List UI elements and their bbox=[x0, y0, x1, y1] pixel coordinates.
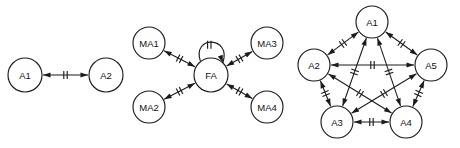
node-p3-a5[interactable]: A5 bbox=[415, 49, 447, 81]
node-p3-a1[interactable]: A1 bbox=[356, 6, 388, 38]
arrow-head-backward bbox=[331, 62, 339, 67]
node-label: MA3 bbox=[257, 38, 277, 49]
edge-tick-mark bbox=[239, 89, 243, 96]
path-diagram-figure: A1A2MA1MA2FAMA3MA4A1A2A5A3A4 bbox=[0, 0, 460, 148]
edge-tick-mark bbox=[383, 89, 387, 96]
edge-tick-mark bbox=[359, 91, 363, 98]
arrow-head-forward bbox=[244, 51, 252, 57]
node-label: A1 bbox=[366, 17, 378, 28]
node-label: MA1 bbox=[139, 38, 159, 49]
node-label: A1 bbox=[19, 70, 31, 81]
node-label: A2 bbox=[100, 70, 112, 81]
arrow-head-forward bbox=[352, 107, 360, 113]
edge-p3-e2 bbox=[386, 32, 418, 55]
edge-p3-e10 bbox=[354, 118, 389, 126]
edge-tick-mark bbox=[339, 41, 344, 47]
figure-canvas: A1A2MA1MA2FAMA3MA4A1A2A5A3A4 bbox=[0, 0, 460, 148]
edge-p2-e3 bbox=[227, 51, 253, 66]
node-p1-a2[interactable]: A2 bbox=[89, 58, 123, 92]
edge-tick-mark bbox=[236, 87, 240, 94]
arrow-head-forward bbox=[384, 107, 392, 113]
edge-tick-mark bbox=[401, 41, 406, 47]
arrow-head-backward bbox=[419, 81, 424, 89]
arrow-head-backward bbox=[227, 60, 235, 66]
edge-tick-mark bbox=[342, 39, 347, 45]
arrow-head-backward bbox=[354, 119, 362, 124]
arrow-head-forward bbox=[244, 93, 252, 99]
arrow-head-forward bbox=[413, 99, 418, 107]
arrow-head-forward bbox=[81, 72, 89, 77]
node-p3-a3[interactable]: A3 bbox=[321, 106, 353, 138]
edge-tick-mark bbox=[236, 56, 240, 63]
arrow-head-forward bbox=[407, 62, 415, 67]
edge-p2-e2 bbox=[164, 83, 195, 99]
node-label: A5 bbox=[425, 60, 437, 71]
arrow-head-backward bbox=[377, 38, 382, 46]
node-p1-a1[interactable]: A1 bbox=[8, 58, 42, 92]
edge-p2-e4 bbox=[227, 84, 253, 99]
node-label: A4 bbox=[400, 117, 412, 128]
node-p2-fa[interactable]: FA bbox=[194, 58, 228, 92]
arrow-head-backward bbox=[409, 74, 417, 80]
edge-tick-mark bbox=[176, 54, 180, 61]
edge-tick-mark bbox=[356, 89, 360, 96]
edge-tick-mark bbox=[380, 91, 384, 98]
node-label: MA2 bbox=[139, 102, 159, 113]
arrow-head-forward bbox=[396, 98, 401, 106]
edge-p2-e1 bbox=[164, 51, 195, 67]
arrow-head-backward bbox=[351, 32, 359, 39]
arrow-head-backward bbox=[187, 83, 195, 89]
edge-p1-e1 bbox=[43, 71, 88, 79]
node-label: FA bbox=[205, 70, 217, 81]
arrow-head-forward bbox=[382, 119, 390, 124]
node-p2-ma4[interactable]: MA4 bbox=[251, 91, 283, 123]
arrow-head-forward bbox=[410, 48, 418, 55]
edge-tick-mark bbox=[179, 87, 183, 94]
node-label: A3 bbox=[331, 117, 343, 128]
node-p2-ma1[interactable]: MA1 bbox=[133, 27, 165, 59]
arrow-head-backward bbox=[187, 61, 195, 67]
edge-p3-e1 bbox=[328, 32, 359, 55]
node-p2-ma3[interactable]: MA3 bbox=[251, 27, 283, 59]
edge-tick-mark bbox=[239, 54, 243, 61]
arrow-head-backward bbox=[361, 38, 366, 46]
node-p3-a2[interactable]: A2 bbox=[298, 49, 330, 81]
edge-p3-e6 bbox=[320, 81, 330, 106]
arrow-head-forward bbox=[164, 93, 172, 99]
node-p2-ma2[interactable]: MA2 bbox=[133, 91, 165, 123]
node-label: A2 bbox=[308, 60, 320, 71]
edge-p3-e5 bbox=[331, 61, 414, 69]
arrow-head-backward bbox=[328, 74, 336, 80]
edge-p3-e9 bbox=[413, 81, 424, 107]
arrow-head-backward bbox=[227, 84, 235, 90]
edge-tick-mark bbox=[176, 88, 180, 95]
nodes-layer: A1A2MA1MA2FAMA3MA4A1A2A5A3A4 bbox=[8, 6, 447, 138]
arrow-head-forward bbox=[164, 51, 172, 57]
node-label: MA4 bbox=[257, 102, 277, 113]
arrow-head-backward bbox=[43, 72, 51, 77]
arrow-head-backward bbox=[320, 81, 325, 89]
node-p3-a4[interactable]: A4 bbox=[390, 106, 422, 138]
edge-tick-mark bbox=[398, 39, 403, 45]
arrow-head-forward bbox=[325, 98, 330, 106]
edge-tick-mark bbox=[179, 56, 183, 63]
arrow-head-forward bbox=[343, 98, 348, 106]
arrow-head-forward bbox=[328, 48, 336, 55]
arrow-head-backward bbox=[386, 32, 394, 39]
